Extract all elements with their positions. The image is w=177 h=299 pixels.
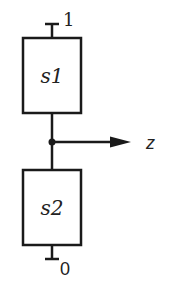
block-s1-label: s1 bbox=[41, 64, 64, 88]
bottom-terminal-label: 0 bbox=[60, 259, 70, 279]
top-terminal: 1 bbox=[45, 9, 74, 38]
output-arrow: z bbox=[52, 133, 155, 153]
diagram-canvas: 1 s1 z s2 0 bbox=[0, 0, 177, 299]
bottom-terminal: 0 bbox=[45, 245, 70, 279]
block-s1: s1 bbox=[23, 38, 81, 113]
top-terminal-label: 1 bbox=[63, 9, 74, 30]
output-label: z bbox=[145, 133, 155, 153]
arrowhead-icon bbox=[110, 137, 131, 148]
block-s2-label: s2 bbox=[41, 196, 64, 220]
block-s2: s2 bbox=[23, 170, 81, 245]
